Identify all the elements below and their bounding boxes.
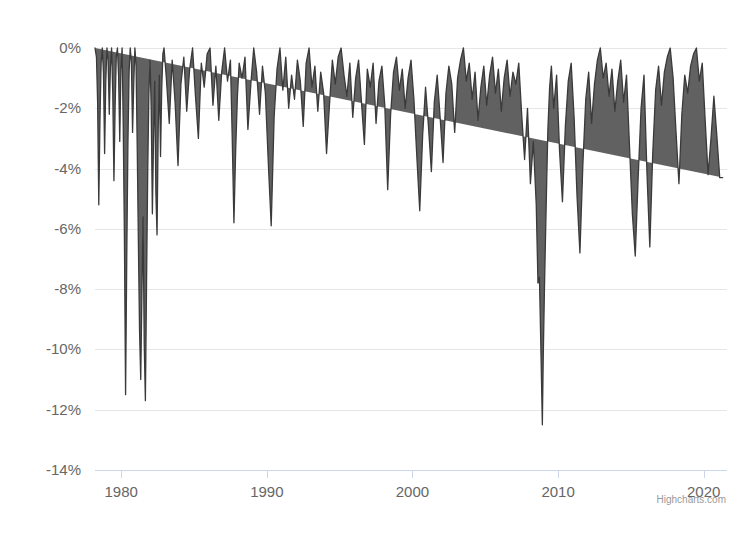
highcharts-credit[interactable]: Highcharts.com (657, 494, 726, 505)
x-tick-label-1: 1990 (250, 483, 283, 500)
drawdown-area-chart[interactable]: 0%-2%-4%-6%-8%-10%-12%-14% 1980199020002… (0, 0, 747, 554)
y-tick-label-1: -2% (54, 99, 81, 116)
x-tick-label-0: 1980 (105, 483, 138, 500)
y-tick-label-5: -10% (46, 340, 81, 357)
y-tick-label-0: 0% (59, 39, 81, 56)
y-tick-label-2: -4% (54, 160, 81, 177)
y-tick-label-4: -8% (54, 280, 81, 297)
y-tick-label-3: -6% (54, 220, 81, 237)
x-tick-label-2: 2000 (396, 483, 429, 500)
y-tick-label-7: -14% (46, 461, 81, 478)
chart-page: 0%-2%-4%-6%-8%-10%-12%-14% 1980199020002… (0, 0, 747, 554)
x-tick-label-3: 2010 (541, 483, 574, 500)
y-tick-label-6: -12% (46, 401, 81, 418)
